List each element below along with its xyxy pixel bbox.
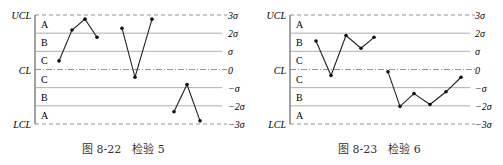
sigma-label: −3σ xyxy=(228,119,246,130)
zone-label: A xyxy=(296,110,304,121)
data-point xyxy=(344,34,348,38)
caption-right: 图 8-23 检验 6 xyxy=(338,140,421,156)
series-line xyxy=(122,19,152,77)
data-point xyxy=(459,75,463,79)
zone-label: A xyxy=(41,19,49,30)
data-point xyxy=(172,110,176,114)
data-point xyxy=(359,46,363,50)
zone-label: B xyxy=(296,37,303,48)
sigma-label: 3σ xyxy=(474,10,486,21)
series-line xyxy=(59,19,97,61)
limit-label: CL xyxy=(19,65,32,76)
caption-left: 图 8-22 检验 5 xyxy=(82,140,165,156)
series-line xyxy=(174,85,200,121)
data-point xyxy=(95,36,99,40)
sigma-label: −3σ xyxy=(475,119,493,130)
control-charts: 3σ2σσ0−σ−2σ−3σUCLCLLCLABCCBA3σ2σσ0−σ−2σ−… xyxy=(0,0,503,165)
zone-label: B xyxy=(41,92,48,103)
data-point xyxy=(398,105,402,109)
data-point xyxy=(120,26,124,30)
sigma-label: 2σ xyxy=(475,28,486,39)
limit-label: CL xyxy=(274,65,287,76)
limit-label: UCL xyxy=(12,10,32,21)
sigma-label: −σ xyxy=(228,83,241,94)
sigma-label: −2σ xyxy=(475,101,493,112)
data-point xyxy=(185,83,189,87)
zone-label: A xyxy=(296,19,304,30)
data-point xyxy=(314,39,318,43)
sigma-label: 3σ xyxy=(227,10,239,21)
series-line xyxy=(388,72,461,107)
zone-label: C xyxy=(41,55,48,66)
sigma-label: −2σ xyxy=(228,101,246,112)
data-point xyxy=(428,103,432,107)
sigma-label: −σ xyxy=(475,83,488,94)
data-point xyxy=(133,75,137,79)
zone-label: B xyxy=(296,92,303,103)
zone-label: A xyxy=(41,110,49,121)
limit-label: UCL xyxy=(267,10,287,21)
data-point xyxy=(70,28,74,32)
limit-label: LCL xyxy=(267,119,286,130)
sigma-label: 0 xyxy=(228,65,233,76)
sigma-label: 0 xyxy=(475,65,480,76)
zone-label: C xyxy=(41,74,48,85)
data-point xyxy=(198,119,202,123)
sigma-label: σ xyxy=(475,46,481,57)
data-point xyxy=(386,70,390,74)
data-point xyxy=(57,59,61,63)
zone-label: B xyxy=(41,37,48,48)
data-point xyxy=(150,17,154,21)
data-point xyxy=(329,74,333,78)
data-point xyxy=(444,90,448,94)
sigma-label: 2σ xyxy=(228,28,239,39)
data-point xyxy=(412,92,416,96)
sigma-label: σ xyxy=(228,46,234,57)
data-point xyxy=(83,17,87,21)
zone-label: C xyxy=(296,55,303,66)
limit-label: LCL xyxy=(12,119,31,130)
zone-label: C xyxy=(296,74,303,85)
data-point xyxy=(372,36,376,40)
